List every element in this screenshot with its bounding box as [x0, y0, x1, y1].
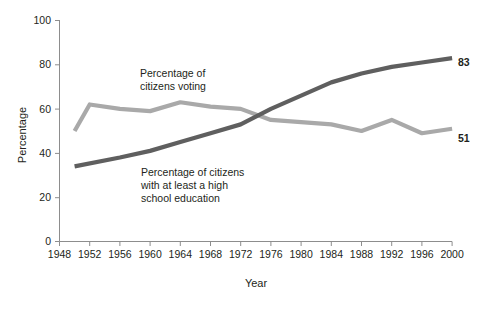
series-line-voting [75, 102, 453, 133]
line-chart: 100 80 60 40 20 0 Percentage 1948 1952 [0, 0, 481, 309]
x-axis-title: Year [245, 277, 268, 289]
x-tick-label-1988: 1988 [350, 248, 374, 260]
x-tick-label-1980: 1980 [289, 248, 313, 260]
x-tick-label-1960: 1960 [138, 248, 162, 260]
annotation-voting-line2: citizens voting [140, 80, 206, 92]
chart-axes [60, 20, 453, 242]
x-tick-label-1948: 1948 [48, 248, 72, 260]
x-tick-label-1952: 1952 [78, 248, 102, 260]
series-line-education [75, 58, 453, 166]
y-axis-title: Percentage [16, 107, 28, 163]
y-tick-label-100: 100 [33, 14, 51, 26]
annotation-education-line2: with at least a high [140, 179, 228, 191]
y-tick-label-20: 20 [39, 191, 51, 203]
x-axis-ticks [60, 242, 453, 247]
chart-container: 100 80 60 40 20 0 Percentage 1948 1952 [0, 0, 481, 309]
x-tick-label-1984: 1984 [320, 248, 344, 260]
x-tick-label-2000: 2000 [440, 248, 464, 260]
y-tick-label-40: 40 [39, 147, 51, 159]
y-tick-label-0: 0 [45, 235, 51, 247]
end-label-voting: 51 [458, 132, 470, 144]
x-tick-label-1992: 1992 [380, 248, 404, 260]
x-tick-label-1976: 1976 [259, 248, 283, 260]
annotation-education-line3: school education [141, 192, 220, 204]
x-tick-label-1956: 1956 [108, 248, 132, 260]
x-tick-label-1968: 1968 [199, 248, 223, 260]
annotation-voting-line1: Percentage of [140, 67, 205, 79]
y-tick-label-80: 80 [39, 58, 51, 70]
annotation-education-line1: Percentage of citizens [141, 166, 244, 178]
y-axis-ticks [55, 21, 60, 242]
x-tick-label-1996: 1996 [410, 248, 434, 260]
x-tick-label-1972: 1972 [229, 248, 253, 260]
x-tick-label-1964: 1964 [169, 248, 193, 260]
y-tick-label-60: 60 [39, 103, 51, 115]
end-label-education: 83 [458, 56, 470, 68]
